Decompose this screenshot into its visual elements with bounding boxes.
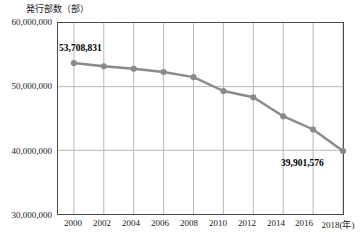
x-tick-label-2016: 2016 xyxy=(295,218,313,228)
chart-page: 発行部数（部） 60,000,000 50,000,000 40,000,000… xyxy=(0,0,364,235)
x-tick-label-2010: 2010 xyxy=(209,218,227,228)
y-tick-label-50000000: 50,000,000 xyxy=(12,81,53,91)
x-tick-label-2002: 2002 xyxy=(93,218,111,228)
x-tick-label-2000: 2000 xyxy=(64,218,82,228)
x-tick-label-2014: 2014 xyxy=(267,218,285,228)
x-tick-label-2018: 2018(年) xyxy=(322,218,355,231)
y-tick-label-40000000: 40,000,000 xyxy=(12,146,53,156)
x-tick-label-2012: 2012 xyxy=(238,218,256,228)
value-annotation-first: 53,708,831 xyxy=(59,43,102,53)
x-tick-label-2004: 2004 xyxy=(122,218,140,228)
x-tick-label-2008: 2008 xyxy=(180,218,198,228)
y-tick-label-30000000: 30,000,000 xyxy=(12,210,53,220)
y-tick-label-60000000: 60,000,000 xyxy=(12,17,53,27)
x-tick-label-2006: 2006 xyxy=(151,218,169,228)
y-axis-title: 発行部数（部） xyxy=(26,2,89,15)
value-annotation-last: 39,901,576 xyxy=(281,158,324,168)
